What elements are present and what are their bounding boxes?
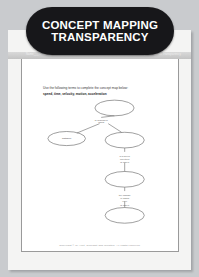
banner-title-line2: TRANSPARENCY — [42, 31, 158, 44]
concept-node-label: distance — [62, 137, 72, 140]
instructions-prompt: Use the following terms to complete the … — [43, 86, 128, 90]
concept-link-label: in a givendirectionis called — [120, 155, 131, 164]
page-content-area: Use the following terms to complete the … — [21, 52, 179, 252]
instructions-terms: speed, time, velocity, motion, accelerat… — [43, 92, 164, 97]
transparency-page: Name___ Class___ Chapter 2 Motion Transp… — [8, 30, 191, 270]
concept-link-label: is describedusing — [95, 119, 109, 125]
concept-map-svg: distanceis describedusingin a givendirec… — [22, 97, 178, 241]
concept-map-connectors — [77, 116, 125, 208]
concept-node — [105, 171, 144, 187]
title-banner: CONCEPT MAPPING TRANSPARENCY — [26, 7, 174, 55]
concept-node — [95, 100, 134, 116]
banner-title: CONCEPT MAPPING TRANSPARENCY — [42, 19, 158, 44]
concept-node — [105, 208, 144, 224]
concept-map-diagram: distanceis describedusingin a givendirec… — [22, 97, 178, 241]
concept-link-label: is called — [120, 204, 129, 207]
concept-node — [105, 132, 144, 148]
concept-link-label: the changeof whichover — [119, 194, 132, 203]
instructions-block: Use the following terms to complete the … — [43, 86, 164, 96]
worksheet-screenshot: Name___ Class___ Chapter 2 Motion Transp… — [0, 0, 199, 277]
page-footer-credit: Copyright © by Holt, Rinehart and Winsto… — [22, 244, 178, 247]
banner-title-line1: CONCEPT MAPPING — [42, 19, 158, 31]
